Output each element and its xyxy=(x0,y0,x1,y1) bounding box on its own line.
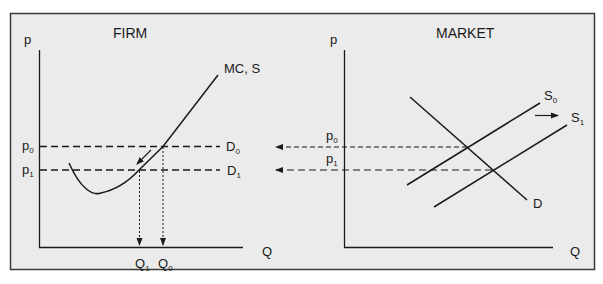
firm-mc-label: MC, S xyxy=(224,61,260,76)
firm-market-diagram: FIRM p Q p0 p1 D0 D1 MC, S Q1 Q0 MARKET … xyxy=(0,0,603,284)
firm-x-axis-label: Q xyxy=(262,244,272,259)
diagram-frame xyxy=(11,14,595,270)
firm-title: FIRM xyxy=(113,25,147,41)
firm-y-axis-label: p xyxy=(24,32,31,47)
market-title: MARKET xyxy=(436,25,495,41)
market-demand-label: D xyxy=(533,196,542,211)
market-y-axis-label: p xyxy=(330,32,337,47)
market-x-axis-label: Q xyxy=(570,244,580,259)
